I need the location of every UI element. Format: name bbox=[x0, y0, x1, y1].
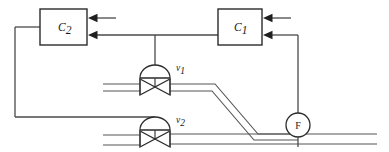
valve-v2-label: v2 bbox=[176, 115, 185, 128]
upper-pipe-inlet bbox=[103, 84, 140, 91]
controller-c1-label-sub: 1 bbox=[242, 24, 248, 36]
valve-v1-actuator-icon bbox=[140, 65, 170, 78]
controller-c2[interactable]: C2 bbox=[40, 9, 87, 45]
valve-v1-label-sub: 1 bbox=[180, 66, 185, 76]
flow-meter[interactable]: F bbox=[286, 113, 310, 147]
flow-meter-to-c1-signal bbox=[263, 31, 298, 113]
valve-v2-actuator-icon bbox=[140, 117, 170, 130]
valve-v1-body-left bbox=[140, 79, 155, 95]
process-diagram-canvas: C2 C1 v1 bbox=[0, 0, 389, 152]
lower-pipe-inlet bbox=[103, 135, 140, 145]
valve-v2-body-left bbox=[140, 131, 155, 147]
lower-pipe-outlet bbox=[170, 134, 377, 144]
c1-to-c2-setpoint-signal bbox=[88, 31, 218, 66]
controller-c2-label-sub: 2 bbox=[66, 24, 72, 36]
upper-pipe-outlet-diagonal bbox=[170, 84, 298, 140]
valve-v1[interactable]: v1 bbox=[140, 63, 185, 95]
flow-meter-label: F bbox=[295, 120, 301, 131]
valve-v2-label-sub: 2 bbox=[180, 118, 185, 128]
valve-v2[interactable]: v2 bbox=[140, 115, 185, 147]
external-setpoint-c1-signal bbox=[263, 14, 291, 22]
valve-v1-label: v1 bbox=[176, 63, 185, 76]
pid-svg: C2 C1 v1 bbox=[0, 0, 389, 152]
controller-c1[interactable]: C1 bbox=[218, 9, 262, 45]
external-setpoint-c2-signal bbox=[88, 14, 116, 22]
valve-v2-body-right bbox=[155, 131, 170, 147]
valve-v1-body-right bbox=[155, 79, 170, 95]
